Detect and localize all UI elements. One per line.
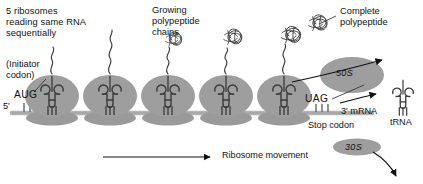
small-subunit-label: 30S: [345, 142, 362, 153]
complete-polypeptide-label: Complete polypeptide: [340, 6, 388, 28]
three-prime-mrna-label: 3' mRNA: [341, 106, 377, 117]
growing-chains-label: Growing polypeptide chains: [152, 5, 200, 38]
ribosome-4-polypeptide: [224, 29, 242, 44]
stop-codon-label: Stop codon: [308, 120, 354, 131]
five-prime-label: 5': [3, 101, 10, 112]
ribosome-2-nascent-chain: [108, 30, 112, 74]
ribosome-movement-label: Ribosome movement: [222, 150, 308, 161]
subunit-release-arrow: [373, 152, 396, 176]
trna-label: tRNA: [390, 117, 412, 128]
initiator-codon-label: (Initiator codon): [6, 59, 40, 81]
polysome-note: 5 ribosomes reading same RNA sequentiall…: [6, 6, 86, 39]
trna-release-arrow: [340, 94, 376, 103]
diagram-canvas: 5 ribosomes reading same RNA sequentiall…: [0, 0, 423, 184]
ribosome-5: [257, 26, 311, 125]
ribosome-1-nascent-chain: [51, 47, 54, 74]
free-trna: [393, 80, 414, 116]
ribosome-5-polypeptide: [281, 26, 300, 42]
start-codon-label: AUG: [14, 89, 38, 101]
stop-codon-sequence-label: UAG: [305, 93, 329, 105]
complete-polypeptide-ball: [309, 15, 327, 31]
large-subunit-label: 50S: [336, 68, 353, 79]
